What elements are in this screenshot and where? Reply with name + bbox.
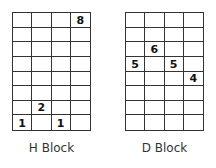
grid-cell (71, 28, 90, 43)
grid-cell (165, 86, 184, 101)
grid-cell (52, 72, 71, 87)
grid-cell (165, 28, 184, 43)
d-block-label: D Block (125, 141, 204, 155)
grid-cell (52, 28, 71, 43)
grid-cell (52, 57, 71, 72)
grid-cell (32, 42, 51, 57)
h-block-grid: 8211 (12, 12, 91, 131)
grid-cell (165, 13, 184, 28)
grid-cell (13, 28, 32, 43)
grid-cell (52, 101, 71, 116)
grid-cell (184, 86, 203, 101)
grid-cell (32, 115, 51, 130)
h-block: 8211 (12, 12, 91, 131)
grid-cell: 1 (52, 115, 71, 130)
grid-cell (165, 115, 184, 130)
grid-cell: 5 (126, 57, 145, 72)
grid-cell (165, 42, 184, 57)
grid-cell (32, 86, 51, 101)
grid-cell (126, 86, 145, 101)
grid-cell (13, 57, 32, 72)
grid-cell (184, 28, 203, 43)
grid-cell (71, 42, 90, 57)
grid-cell (126, 115, 145, 130)
grid-cell (126, 101, 145, 116)
grid-cell (145, 28, 164, 43)
grid-cell (184, 115, 203, 130)
grid-cell (184, 101, 203, 116)
h-block-label: H Block (12, 141, 91, 155)
grid-cell (145, 101, 164, 116)
grid-cell (184, 13, 203, 28)
grid-cell (13, 101, 32, 116)
grid-cell (52, 86, 71, 101)
grid-cell (126, 28, 145, 43)
grid-cell: 4 (184, 72, 203, 87)
grid-cell (145, 57, 164, 72)
grid-cell: 1 (13, 115, 32, 130)
grid-cell (71, 115, 90, 130)
grid-cell (165, 72, 184, 87)
grid-cell: 2 (32, 101, 51, 116)
grid-cell (71, 72, 90, 87)
grid-cell (52, 13, 71, 28)
grid-cell: 8 (71, 13, 90, 28)
grid-cell (71, 86, 90, 101)
grid-cell: 5 (165, 57, 184, 72)
grid-cell: 6 (145, 42, 164, 57)
grid-cell (126, 13, 145, 28)
grid-cell (71, 101, 90, 116)
grid-cell (13, 13, 32, 28)
grid-cell (184, 57, 203, 72)
d-block: 6554 (125, 12, 204, 131)
grid-cell (32, 13, 51, 28)
grid-cell (71, 57, 90, 72)
grid-cell (184, 42, 203, 57)
grid-cell (13, 42, 32, 57)
grid-cell (52, 42, 71, 57)
grid-cell (32, 72, 51, 87)
grid-cell (32, 57, 51, 72)
grid-cell (145, 72, 164, 87)
grid-cell (145, 13, 164, 28)
grid-cell (126, 72, 145, 87)
grid-cell (145, 86, 164, 101)
grid-cell (13, 86, 32, 101)
grid-cell (145, 115, 164, 130)
d-block-grid: 6554 (125, 12, 204, 131)
grid-cell (13, 72, 32, 87)
grid-cell (165, 101, 184, 116)
grid-cell (126, 42, 145, 57)
grid-cell (32, 28, 51, 43)
